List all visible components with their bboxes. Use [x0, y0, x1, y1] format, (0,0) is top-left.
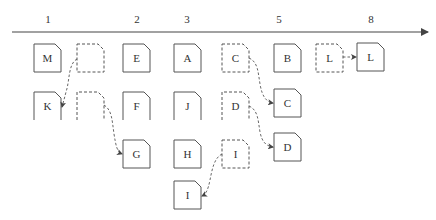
box-label: C [232, 52, 239, 64]
box-i: I [174, 181, 201, 209]
edges [62, 57, 356, 196]
box-d-dash: D [222, 92, 249, 120]
box-k: K [34, 92, 61, 120]
box-j: J [174, 92, 201, 120]
box-label: A [184, 52, 192, 64]
box-label: K [44, 100, 52, 112]
edge-empty1-to-k [62, 59, 77, 107]
box-label: G [133, 148, 141, 160]
box-label: L [326, 52, 333, 64]
edge-empty2-to-g [104, 105, 122, 154]
box-f: F [123, 92, 150, 120]
box-i-dash: I [222, 140, 249, 168]
box-label: H [184, 148, 192, 160]
box-a: A [174, 44, 201, 72]
box-label: J [185, 100, 190, 112]
box-label: I [234, 148, 238, 160]
box-b: B [274, 44, 301, 72]
box-m: M [34, 44, 61, 72]
timeline-diagram: 12358 MEACBLLKFJDCGHIDI [0, 0, 436, 220]
axis-tick-label: 8 [368, 13, 374, 25]
edge-idash-to-i [202, 154, 222, 196]
box-c-dash: C [222, 44, 249, 72]
box-label: D [232, 100, 240, 112]
axis-tick-label: 2 [134, 13, 140, 25]
box-label: L [367, 51, 374, 63]
axis-tick-label: 1 [45, 13, 51, 25]
axis-tick-labels: 12358 [45, 13, 374, 25]
dashed-box-outline [77, 44, 104, 72]
box-label: I [186, 189, 190, 201]
axis-tick-label: 3 [184, 13, 190, 25]
box-e: E [123, 44, 150, 72]
edge-ddash-to-d [249, 106, 273, 147]
box-label: D [284, 141, 292, 153]
axis-tick-label: 5 [276, 13, 282, 25]
dashed-box-outline [77, 92, 104, 120]
box-empty2 [77, 92, 104, 120]
box-label: M [43, 52, 53, 64]
box-empty1 [77, 44, 104, 72]
edge-cdash-to-c [249, 58, 273, 103]
box-label: C [284, 97, 291, 109]
time-axis: 12358 [12, 13, 428, 32]
box-l-dash: L [316, 44, 343, 72]
box-label: E [133, 52, 140, 64]
box-h: H [174, 140, 201, 168]
box-label: B [284, 52, 291, 64]
box-d: D [274, 133, 301, 161]
box-c: C [274, 89, 301, 117]
box-l: L [357, 43, 384, 71]
box-g: G [123, 140, 150, 168]
box-label: F [133, 100, 139, 112]
